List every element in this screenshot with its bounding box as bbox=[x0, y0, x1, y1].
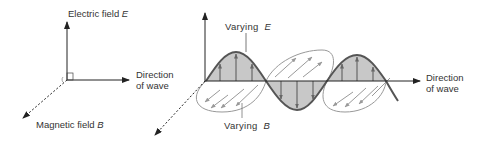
left-axes bbox=[23, 22, 129, 118]
magnetic-field-symbol: B bbox=[97, 119, 103, 130]
left-direction-label: Direction of wave bbox=[136, 69, 174, 91]
right-direction-line2: of wave bbox=[426, 83, 464, 94]
magnetic-field-text: Magnetic field bbox=[36, 119, 95, 130]
em-wave-diagram: Electric field E Direction of wave Magne… bbox=[0, 0, 482, 144]
right-angle-icon bbox=[67, 73, 73, 80]
varying-e-text: Varying bbox=[225, 21, 259, 32]
left-direction-line2: of wave bbox=[136, 80, 174, 91]
magnetic-axis-arrow bbox=[23, 80, 67, 118]
right-direction-line1: Direction bbox=[426, 72, 464, 83]
electric-field-symbol: E bbox=[122, 8, 128, 19]
electric-field-label: Electric field E bbox=[68, 8, 128, 19]
varying-e-symbol: E bbox=[265, 21, 272, 32]
varying-b-label: Varying B bbox=[224, 120, 270, 131]
right-direction-label: Direction of wave bbox=[426, 72, 464, 94]
electric-field-text: Electric field bbox=[68, 8, 119, 19]
magnetic-field-label: Magnetic field B bbox=[36, 119, 104, 130]
varying-b-symbol: B bbox=[264, 120, 271, 131]
varying-e-label: Varying E bbox=[225, 21, 271, 32]
left-direction-line1: Direction bbox=[136, 69, 174, 80]
varying-b-text: Varying bbox=[224, 120, 258, 131]
